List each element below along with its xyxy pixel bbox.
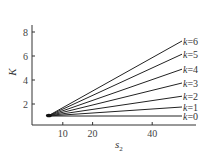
series-label-k4: k=4	[183, 64, 198, 75]
series-label-k3: k=3	[183, 78, 198, 89]
series-line-k4	[48, 69, 182, 116]
axes	[32, 25, 196, 125]
x-axis-title: s2	[115, 138, 123, 153]
series-label-k5: k=5	[183, 49, 198, 60]
y-axis-title: K	[6, 68, 18, 77]
y-tick-label: 2	[23, 99, 28, 110]
y-tick-label: 4	[23, 75, 28, 86]
series-label-k6: k=6	[183, 36, 198, 47]
series-lines	[46, 41, 182, 117]
x-tick-label: 20	[88, 128, 98, 139]
series-label-k2: k=2	[183, 91, 198, 102]
series-line-k5	[48, 54, 182, 116]
y-tick-label: 6	[23, 51, 28, 62]
series-labels: k=0k=1k=2k=3k=4k=5k=6	[183, 36, 198, 122]
series-label-k1: k=1	[183, 102, 198, 113]
x-tick-label: 40	[147, 128, 157, 139]
chart: 2468 102040 k=0k=1k=2k=3k=4k=5k=6 K s2	[0, 0, 218, 158]
x-axis-title-subscript: 2	[119, 145, 123, 153]
y-ticks: 2468	[23, 27, 35, 110]
series-line-k6	[48, 41, 182, 116]
y-tick-label: 8	[23, 27, 28, 38]
fan-origin-marker	[46, 114, 52, 118]
x-tick-label: 10	[58, 128, 68, 139]
